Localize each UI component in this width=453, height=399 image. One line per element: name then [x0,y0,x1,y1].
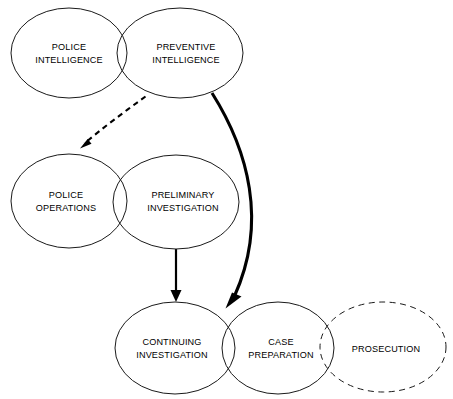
preventive-intelligence-ellipse[interactable] [117,8,243,98]
police-operations-label-line2: OPERATIONS [36,203,96,213]
case-preparation-label-line1: CASE [268,337,293,347]
edge-vertical-arrowhead [171,290,182,302]
case-preparation-label-line2: PREPARATION [248,350,313,360]
edge-preventive-to-police-operations [80,97,146,149]
police-operations-label-line1: POLICE [49,190,83,200]
edge-preventive-to-case-preparation [212,93,252,309]
police-intelligence-label-line2: INTELLIGENCE [35,55,103,65]
police-intelligence-label-line1: POLICE [52,42,86,52]
preventive-intelligence-label-line2: INTELLIGENCE [152,55,220,65]
continuing-investigation-label-line2: INVESTIGATION [136,350,208,360]
node-police-operations[interactable]: POLICE OPERATIONS [11,154,127,248]
police-intelligence-ellipse[interactable] [11,8,127,98]
preventive-intelligence-label-line1: PREVENTIVE [156,42,215,52]
node-prosecution[interactable]: PROSECUTION [320,302,446,392]
preliminary-investigation-label-line2: INVESTIGATION [147,203,219,213]
node-preliminary-investigation[interactable]: PRELIMINARY INVESTIGATION [113,155,239,249]
edge-thick-curve [212,93,252,296]
edge-dashed-arrowhead [80,139,92,148]
edge-thick-arrowhead [226,293,242,309]
prosecution-label-line1: PROSECUTION [352,344,420,354]
edge-dashed-line [85,97,146,144]
case-preparation-ellipse[interactable] [222,302,334,394]
police-operations-ellipse[interactable] [11,154,127,248]
continuing-investigation-label-line1: CONTINUING [142,337,201,347]
preliminary-investigation-label-line1: PRELIMINARY [151,190,214,200]
node-case-preparation[interactable]: CASE PREPARATION [222,302,334,394]
node-continuing-investigation[interactable]: CONTINUING INVESTIGATION [115,302,235,394]
process-flow-diagram: POLICE INTELLIGENCE PREVENTIVE INTELLIGE… [0,0,453,399]
diagram-canvas: POLICE INTELLIGENCE PREVENTIVE INTELLIGE… [0,0,453,399]
edge-preliminary-to-continuing [171,249,182,302]
preliminary-investigation-ellipse[interactable] [113,155,239,249]
node-police-intelligence[interactable]: POLICE INTELLIGENCE [11,8,127,98]
continuing-investigation-ellipse[interactable] [115,302,235,394]
node-preventive-intelligence[interactable]: PREVENTIVE INTELLIGENCE [117,8,243,98]
